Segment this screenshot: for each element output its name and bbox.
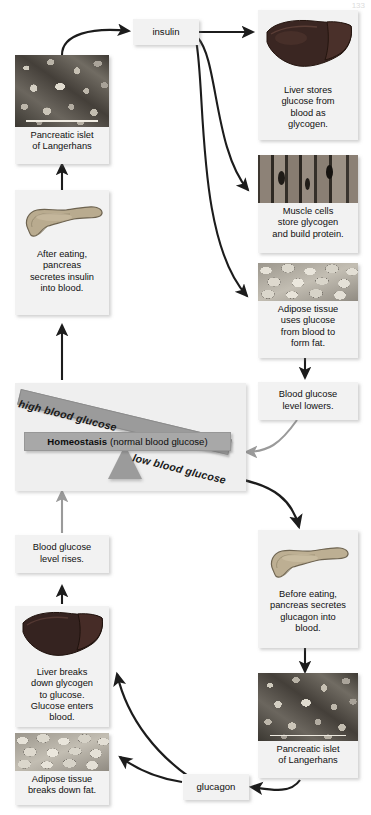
panel-pancreas-after-eating: After eating, pancreas secretes insulin …: [15, 190, 109, 315]
caption-liver-stores: Liver stores glucose from blood as glyco…: [258, 82, 358, 134]
insulin-label-box: insulin: [133, 19, 199, 45]
adipose-tissue-icon-top: [258, 263, 358, 301]
homeostasis-bar: Homeostasis (normal blood glucose): [24, 432, 231, 451]
caption-adipose-breaks-fat: Adipose tissue breaks down fat.: [15, 771, 109, 801]
insulin-label: insulin: [152, 26, 179, 37]
glucagon-label: glucagon: [197, 781, 236, 792]
islet-micrograph-icon: [15, 55, 109, 127]
liver-organ-icon-bottom: [15, 606, 109, 664]
panel-glucose-lowers: Blood glucose level lowers.: [258, 382, 358, 420]
islet-micrograph-icon-bottom: [258, 673, 358, 741]
glucagon-label-box: glucagon: [183, 774, 249, 800]
arrow-homeostasis-to-before-eating: [239, 479, 299, 527]
muscle-fibers-icon: [258, 155, 358, 203]
homeostasis-normal-label: (normal blood glucose): [110, 436, 208, 447]
pancreas-organ-icon-top: [15, 190, 109, 246]
panel-islet-bottom: Pancreatic islet of Langerhans: [258, 673, 358, 778]
caption-glucose-rises: Blood glucose level rises.: [31, 539, 93, 569]
panel-liver-breaks-down: Liver breaks down glycogen to glucose. G…: [15, 606, 109, 727]
arrow-islet-to-glucagon: [251, 780, 300, 790]
blood-glucose-homeostasis-diagram: 133: [0, 0, 371, 815]
caption-islet-bottom: Pancreatic islet of Langerhans: [258, 741, 358, 771]
homeostasis-bold-label: Homeostasis: [47, 436, 107, 447]
caption-liver-breaks-down: Liver breaks down glycogen to glucose. G…: [15, 664, 109, 727]
panel-muscle-stores: Muscle cells store glycogen and build pr…: [258, 155, 358, 253]
page-number: 133: [352, 1, 365, 10]
homeostasis-block: high blood glucose low blood glucose Hom…: [15, 383, 246, 491]
arrow-insulin-to-adipose: [196, 40, 247, 296]
panel-adipose-breaks-fat: Adipose tissue breaks down fat.: [15, 733, 109, 805]
panel-pancreas-before-eating: Before eating, pancreas secretes glucago…: [258, 530, 358, 648]
caption-glucose-lowers: Blood glucose level lowers.: [277, 386, 339, 416]
caption-pancreas-before-eating: Before eating, pancreas secretes glucago…: [258, 586, 358, 638]
caption-pancreas-after-eating: After eating, pancreas secretes insulin …: [15, 246, 109, 298]
panel-islet-top: Pancreatic islet of Langerhans: [15, 55, 109, 164]
arrow-insulin-to-muscle: [198, 38, 248, 190]
arrow-islet-to-insulin: [62, 30, 129, 55]
pancreas-organ-icon-bottom: [258, 530, 358, 586]
caption-islet-top: Pancreatic islet of Langerhans: [15, 127, 109, 157]
panel-liver-stores: Liver stores glucose from blood as glyco…: [258, 10, 358, 140]
arrow-glucagon-to-adipose: [120, 757, 182, 782]
panel-adipose-forms-fat: Adipose tissue uses glucose from blood t…: [258, 263, 358, 358]
arrow-glucagon-to-liver: [117, 674, 188, 776]
arrow-glucose-lowers-to-homeostasis: [246, 420, 297, 452]
adipose-tissue-icon-bottom: [15, 733, 109, 771]
panel-glucose-rises: Blood glucose level rises.: [15, 535, 109, 573]
caption-adipose-forms-fat: Adipose tissue uses glucose from blood t…: [258, 301, 358, 353]
label-low-blood-glucose: low blood glucose: [132, 451, 228, 486]
liver-organ-icon-top: [258, 10, 358, 82]
caption-muscle-stores: Muscle cells store glycogen and build pr…: [258, 203, 358, 244]
